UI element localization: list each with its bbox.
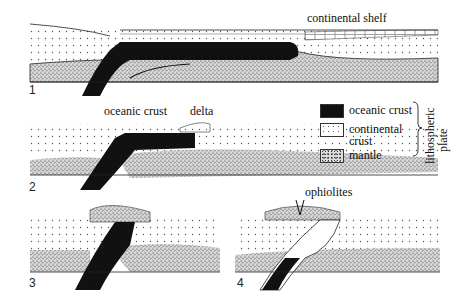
panel-4 <box>235 200 440 290</box>
panel-1 <box>30 24 438 96</box>
diagram-canvas <box>0 0 463 306</box>
legend-label: oceanic crust <box>349 104 412 116</box>
panel-number-3: 3 <box>29 277 36 289</box>
label-oceanic-crust: oceanic crust <box>104 105 167 117</box>
legend-label: mantle <box>349 149 382 161</box>
legend-group-label-line2: plate <box>437 129 449 152</box>
label-delta: delta <box>190 105 213 117</box>
legend-item-mantle: mantle <box>320 149 382 163</box>
oceanic-crust-swatch <box>320 104 344 118</box>
legend-item-oceanic-crust: oceanic crust <box>320 104 412 118</box>
panel-3 <box>30 205 220 290</box>
panel-number-2: 2 <box>29 181 36 193</box>
continental-crust-swatch <box>320 123 344 137</box>
label-ophiolites: ophiolites <box>305 186 352 198</box>
legend-label: crust <box>349 135 402 147</box>
mantle-swatch <box>320 149 344 163</box>
legend-item-continental-crust: continental crust <box>320 123 402 147</box>
legend-group-label-line1: lithospheric <box>424 107 436 164</box>
label-continental-shelf: continental shelf <box>307 12 387 24</box>
panel-number-1: 1 <box>29 84 36 96</box>
panel-number-4: 4 <box>237 277 244 289</box>
